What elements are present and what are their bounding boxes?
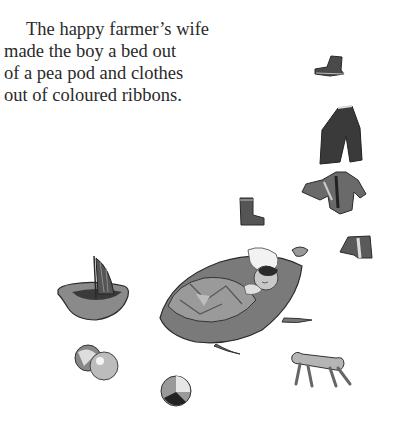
walnut-boat-icon (58, 256, 129, 320)
trousers-icon (320, 106, 362, 164)
pea-pod-bed-icon (160, 247, 312, 354)
stool-icon (292, 352, 350, 386)
boot-icon (240, 198, 264, 225)
marbles-icon (75, 345, 118, 380)
illustration (0, 0, 396, 428)
shirt-icon (340, 236, 372, 258)
jacket-icon (302, 172, 366, 214)
ball-icon (161, 376, 191, 406)
boot-icon (315, 56, 344, 76)
